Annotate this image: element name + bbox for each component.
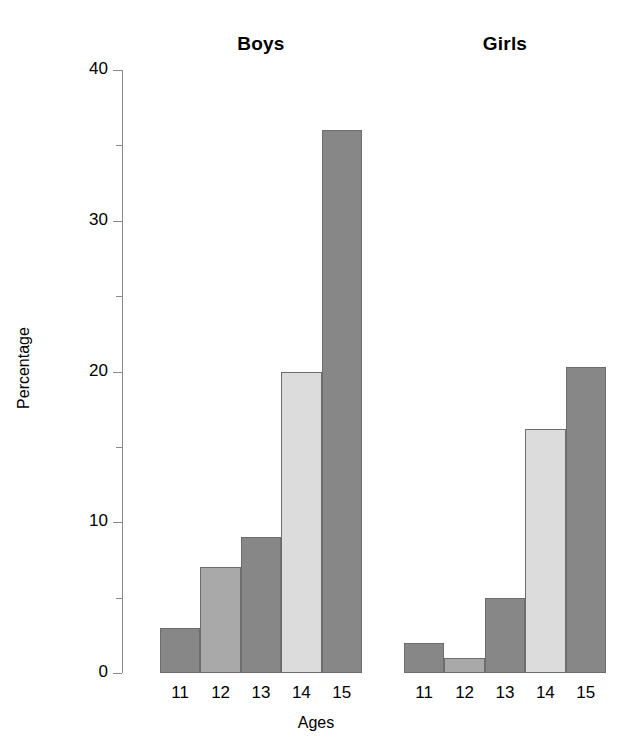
bar-boys-age-11: [160, 628, 200, 673]
y-tick-label-30: 30: [89, 210, 108, 230]
bar-boys-age-14: [281, 372, 321, 674]
y-tick-label-40: 40: [89, 59, 108, 79]
y-tick-label-10: 10: [89, 511, 108, 531]
y-tick-major-10: [113, 522, 122, 523]
x-tick-label-girls-11: 11: [404, 683, 444, 703]
y-tick-label-20: 20: [89, 361, 108, 381]
y-tick-minor-35: [116, 145, 122, 146]
panel-title-girls: Girls: [404, 33, 606, 55]
y-axis-label: Percentage: [15, 308, 33, 428]
x-tick-label-girls-14: 14: [525, 683, 565, 703]
bar-boys-age-15: [322, 130, 362, 673]
bar-boys-age-12: [200, 567, 240, 673]
y-tick-label-wrap-10: 10: [60, 522, 108, 523]
bar-boys-age-13: [241, 537, 281, 673]
x-tick-label-girls-15: 15: [566, 683, 606, 703]
bar-series-boys: [160, 70, 362, 673]
y-tick-major-0: [113, 673, 122, 674]
x-axis-tick-labels-boys: 1112131415: [160, 683, 362, 703]
x-tick-label-boys-12: 12: [200, 683, 240, 703]
bar-chart-figure: Boys Girls 010203040 Percentage 11121314…: [0, 0, 632, 755]
bar-girls-age-11: [404, 643, 444, 673]
bar-girls-age-15: [566, 367, 606, 673]
y-tick-label-wrap-20: 20: [60, 372, 108, 373]
y-tick-minor-5: [116, 598, 122, 599]
y-axis-line: [122, 70, 123, 673]
x-axis-tick-labels-girls: 1112131415: [404, 683, 606, 703]
x-tick-label-boys-11: 11: [160, 683, 200, 703]
x-axis-baseline-boys: [160, 672, 362, 673]
y-tick-label-wrap-30: 30: [60, 221, 108, 222]
y-tick-label-wrap-40: 40: [60, 70, 108, 71]
x-tick-label-girls-13: 13: [485, 683, 525, 703]
bar-series-girls: [404, 70, 606, 673]
y-tick-minor-15: [116, 447, 122, 448]
y-tick-label-0: 0: [99, 662, 108, 682]
bar-girls-age-12: [444, 658, 484, 673]
x-axis-label: Ages: [0, 714, 632, 732]
y-tick-minor-25: [116, 296, 122, 297]
x-tick-label-boys-14: 14: [281, 683, 321, 703]
y-tick-major-30: [113, 221, 122, 222]
bar-girls-age-14: [525, 429, 565, 673]
panel-girls: 1112131415: [404, 70, 606, 673]
y-tick-label-wrap-0: 0: [60, 673, 108, 674]
x-tick-label-boys-13: 13: [241, 683, 281, 703]
panel-boys: 1112131415: [160, 70, 362, 673]
panel-title-boys: Boys: [160, 33, 362, 55]
x-tick-label-girls-12: 12: [444, 683, 484, 703]
x-axis-baseline-girls: [404, 672, 606, 673]
y-tick-major-40: [113, 70, 122, 71]
bar-girls-age-13: [485, 598, 525, 673]
x-tick-label-boys-15: 15: [322, 683, 362, 703]
y-tick-major-20: [113, 372, 122, 373]
